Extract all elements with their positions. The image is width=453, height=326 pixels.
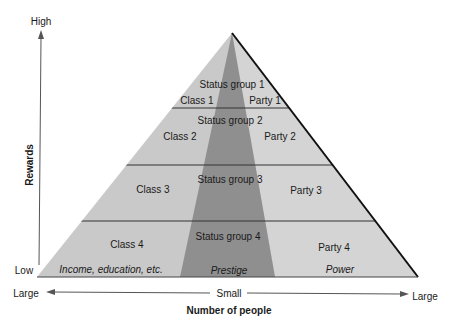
party-2-label: Party 2 <box>264 131 296 142</box>
y-axis-arrow-icon <box>38 30 44 39</box>
party-4-label: Party 4 <box>318 242 350 253</box>
x-axis-left-line <box>52 292 210 293</box>
x-axis-right-line <box>247 293 402 294</box>
party-dimension-label: Power <box>326 264 355 275</box>
class-4-label: Class 4 <box>110 239 144 250</box>
status-group-3-label: Status group 3 <box>197 174 262 185</box>
status-group-1-label: Status group 1 <box>199 79 264 90</box>
class-2-label: Class 2 <box>163 131 197 142</box>
class-1-label: Class 1 <box>180 95 214 106</box>
x-axis-center-label: Small <box>216 288 241 299</box>
status-group-2-label: Status group 2 <box>197 115 262 126</box>
x-axis-left-label: Large <box>13 288 39 299</box>
x-axis-right-arrow-icon <box>400 291 409 297</box>
x-axis-right-label: Large <box>412 291 438 302</box>
x-axis: Large Small Large Number of people <box>13 288 438 316</box>
class-dimension-label: Income, education, etc. <box>59 264 162 275</box>
stratification-pyramid-diagram: Status group 1 Class 1 Party 1 Status gr… <box>0 0 453 326</box>
party-1-label: Party 1 <box>249 95 281 106</box>
x-axis-title: Number of people <box>186 305 271 316</box>
y-axis: High Low Rewards <box>15 16 51 276</box>
status-group-4-label: Status group 4 <box>195 231 260 242</box>
x-axis-left-arrow-icon <box>46 289 55 295</box>
y-axis-high-label: High <box>31 16 52 27</box>
y-axis-low-label: Low <box>15 265 34 276</box>
class-3-label: Class 3 <box>136 184 170 195</box>
y-axis-title: Rewards <box>24 144 35 186</box>
party-3-label: Party 3 <box>290 185 322 196</box>
status-dimension-label: Prestige <box>211 265 248 276</box>
y-axis-line <box>39 38 41 265</box>
